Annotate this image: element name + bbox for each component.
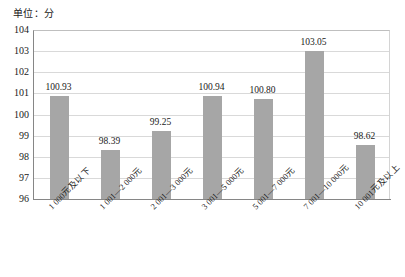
- gridline: [34, 93, 389, 94]
- bar-value-label: 98.62: [354, 131, 375, 141]
- y-axis-tick-label: 100: [1, 110, 29, 120]
- y-axis-tick-label: 102: [1, 67, 29, 77]
- y-axis-tick-label: 103: [1, 46, 29, 56]
- y-axis-tick-label: 96: [1, 194, 29, 204]
- chart-unit-title: 单位：分: [13, 5, 54, 20]
- bar[interactable]: [305, 51, 324, 200]
- y-axis-tick-label: 99: [1, 131, 29, 141]
- gridline: [34, 51, 389, 52]
- gridline: [34, 72, 389, 73]
- bar-value-label: 103.05: [300, 37, 326, 47]
- bar-value-label: 98.39: [99, 136, 120, 146]
- bar-value-label: 100.93: [45, 82, 71, 92]
- y-axis-tick-label: 104: [1, 25, 29, 35]
- bar-value-label: 99.25: [150, 117, 171, 127]
- bar-value-label: 100.80: [249, 85, 275, 95]
- y-axis-tick-label: 97: [1, 173, 29, 183]
- y-axis-tick-label: 98: [1, 152, 29, 162]
- y-axis-tick-label: 101: [1, 88, 29, 98]
- bar-chart: 单位：分 10410310210110099989796 1 000元及以下1 …: [0, 0, 405, 277]
- bar-value-label: 100.94: [198, 82, 224, 92]
